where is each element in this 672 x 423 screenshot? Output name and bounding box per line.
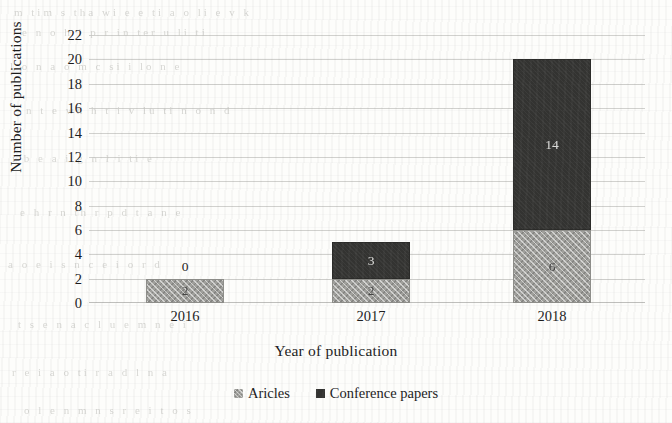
legend-item-articles[interactable]: Aricles [234, 385, 290, 402]
bar-label-articles-2016: 2 [182, 284, 189, 298]
y-tick-label: 16 [42, 101, 82, 116]
y-tick-label: 2 [42, 271, 82, 286]
x-tick-label-2018: 2018 [492, 308, 612, 325]
bar-segment-articles-2017[interactable]: 2 [332, 279, 410, 303]
y-tick-label: 14 [42, 125, 82, 140]
y-tick-label: 22 [42, 28, 82, 43]
legend-label-conference-papers: Conference papers [330, 385, 438, 402]
gridline [89, 35, 645, 36]
x-tick-label-2016: 2016 [125, 308, 245, 325]
legend-label-articles: Aricles [248, 385, 290, 402]
bar-label-articles-2018: 6 [549, 260, 556, 274]
y-tick-label: 0 [42, 296, 82, 311]
y-axis-title: Number of publications [7, 7, 25, 187]
y-tick-label: 12 [42, 150, 82, 165]
y-tick-label: 6 [42, 223, 82, 238]
bar-label-conference-2016: 0 [146, 259, 224, 275]
bar-segment-articles-2018[interactable]: 6 [513, 230, 591, 303]
chart-legend: Aricles Conference papers [0, 385, 672, 402]
legend-swatch-icon [316, 389, 325, 398]
y-tick-label: 20 [42, 52, 82, 67]
plot-area: 0 2 2 3 6 14 [89, 35, 645, 303]
y-tick-label: 18 [42, 76, 82, 91]
publications-stacked-bar-chart: Number of publications 22 20 18 16 14 12… [0, 0, 672, 423]
x-axis-title: Year of publication [0, 342, 672, 360]
bar-label-conference-2018: 14 [545, 138, 559, 152]
bar-label-articles-2017: 2 [368, 284, 375, 298]
bar-segment-conference-2017[interactable]: 3 [332, 242, 410, 279]
bar-segment-articles-2016[interactable]: 2 [146, 279, 224, 303]
bar-label-conference-2017: 3 [368, 254, 375, 268]
x-axis-tick-labels: 2016 2017 2018 [89, 308, 645, 330]
y-tick-label: 4 [42, 247, 82, 262]
legend-swatch-icon [234, 389, 243, 398]
legend-item-conference-papers[interactable]: Conference papers [316, 385, 438, 402]
bar-segment-conference-2018[interactable]: 14 [513, 59, 591, 230]
y-tick-label: 8 [42, 198, 82, 213]
y-tick-label: 10 [42, 174, 82, 189]
y-axis-tick-labels: 22 20 18 16 14 12 10 8 6 4 2 0 [40, 35, 82, 303]
x-tick-label-2017: 2017 [311, 308, 431, 325]
